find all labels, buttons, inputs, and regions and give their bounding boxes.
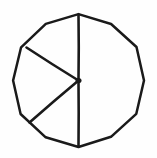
center-vertex xyxy=(76,78,82,83)
circle-sector-diagram xyxy=(0,0,157,158)
radius-upper-left-line xyxy=(27,48,79,81)
radius-lower-left-line xyxy=(30,81,79,123)
figure-container: Circle divided into three sectors xyxy=(0,0,157,158)
